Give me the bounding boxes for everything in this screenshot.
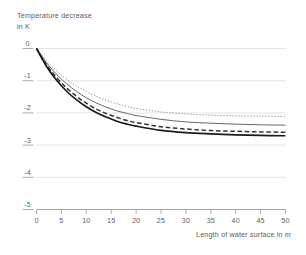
y-tick-label-4: -4 [24, 168, 31, 177]
x-tick-label-6: 30 [182, 216, 190, 225]
y-tick-label-5: -5 [24, 200, 31, 209]
x-tick-label-7: 35 [207, 216, 215, 225]
x-tick-label-5: 25 [157, 216, 165, 225]
x-tick-label-0: 0 [34, 216, 38, 225]
x-axis-label: Length of water surface in m [196, 230, 291, 240]
y-tick-label-3: -3 [24, 136, 31, 145]
x-tick-label-4: 20 [132, 216, 140, 225]
x-tick-label-3: 15 [107, 216, 115, 225]
series-curve-dotted [37, 49, 286, 117]
series-curve-thick-solid [37, 49, 286, 136]
y-tick-label-2: -2 [24, 103, 31, 112]
x-tick-label-8: 40 [232, 216, 240, 225]
y-tick-label-0: 0 [25, 39, 29, 48]
x-tick-label-2: 10 [82, 216, 90, 225]
series-curve-thin-solid [37, 49, 286, 126]
x-tick-label-10: 50 [281, 216, 289, 225]
y-tick-label-1: -1 [24, 71, 31, 80]
temperature-decrease-chart: Temperature decrease in K 0-1-2-3-4-5051… [0, 0, 306, 255]
plot-area: 0-1-2-3-4-505101520253035404550 [0, 0, 306, 255]
x-tick-label-1: 5 [59, 216, 63, 225]
x-tick-label-9: 45 [256, 216, 264, 225]
